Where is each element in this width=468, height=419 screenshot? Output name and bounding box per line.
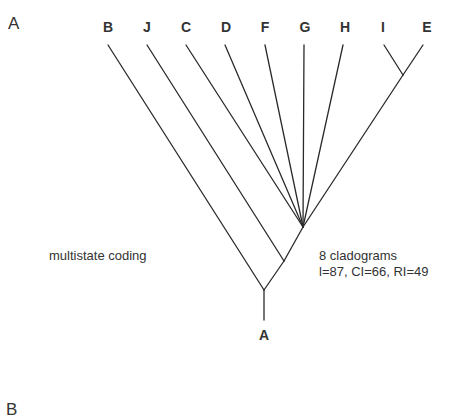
- branch-internal-2: [284, 227, 303, 261]
- root-label: A: [259, 327, 269, 343]
- branch-i: [384, 45, 403, 75]
- panel-b-label: B: [6, 400, 17, 419]
- branch-internal-1: [264, 261, 284, 290]
- branch-g: [303, 45, 304, 227]
- branch-j: [147, 45, 284, 261]
- branch-ie-stem: [303, 75, 403, 227]
- coding-label: multistate coding: [49, 248, 147, 264]
- branch-f: [265, 45, 303, 227]
- branch-d: [225, 45, 303, 227]
- branch-h: [303, 45, 343, 227]
- branch-e: [403, 45, 423, 75]
- result-indices: l=87, CI=66, RI=49: [319, 264, 429, 280]
- result-cladogram-count: 8 cladograms: [319, 248, 397, 264]
